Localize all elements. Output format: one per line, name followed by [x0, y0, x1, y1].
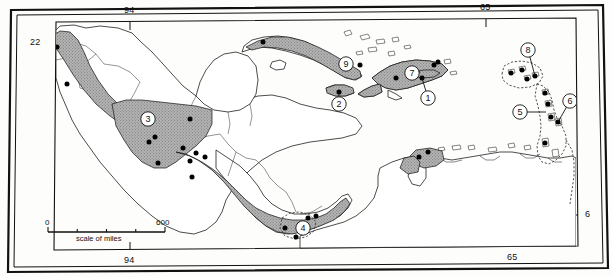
graticule-label-top-94: 94 [124, 5, 135, 15]
graticule-label-bottom-94: 94 [124, 255, 135, 265]
locality-dot [546, 102, 551, 107]
locality-dot [543, 91, 548, 96]
site-marker-label: 9 [343, 59, 348, 69]
site-marker-label: 6 [567, 96, 572, 106]
graticule-label-right-6: 6 [585, 209, 590, 219]
site-marker-9: 9 [339, 57, 353, 71]
site-marker-label: 8 [525, 45, 530, 55]
locality-dot [65, 82, 70, 87]
locality-dot [394, 76, 399, 81]
locality-dot [147, 140, 152, 145]
locality-dot [417, 155, 422, 160]
locality-dot [181, 146, 186, 151]
locality-dot [188, 159, 193, 164]
locality-dot [190, 175, 195, 180]
site-marker-label: 3 [145, 114, 150, 124]
locality-dot [358, 63, 363, 68]
locality-dot [203, 155, 208, 160]
site-marker-2: 2 [332, 97, 346, 111]
site-marker-4: 4 [296, 221, 310, 235]
scale-bar-min-label: 0 [45, 218, 49, 227]
locality-dot [194, 151, 199, 156]
site-marker-1: 1 [421, 91, 435, 105]
locality-dot [153, 135, 158, 140]
graticule-label-bottom-65: 65 [507, 252, 518, 262]
locality-dot [188, 117, 193, 122]
locality-dot [426, 150, 431, 155]
locality-dot [432, 63, 437, 68]
graticule-label-top-65: 65 [480, 2, 491, 12]
site-marker-label: 4 [300, 223, 305, 233]
site-marker-8: 8 [521, 43, 535, 57]
graticule-label-left-22: 22 [30, 37, 41, 47]
site-marker-7: 7 [405, 66, 419, 80]
scale-bar-caption: scale of miles [76, 234, 121, 243]
site-marker-3: 3 [141, 112, 155, 126]
site-marker-label: 1 [425, 93, 430, 103]
locality-dot [525, 77, 530, 82]
distribution-map-figure: 123456789 94 65 94 65 22 6 0 600 scale o… [0, 0, 612, 277]
site-marker-6: 6 [563, 94, 577, 108]
scale-bar-max-label: 600 [156, 218, 169, 227]
locality-dot [156, 161, 161, 166]
site-marker-label: 5 [517, 107, 522, 117]
locality-dot [543, 141, 548, 146]
site-marker-label: 2 [336, 99, 341, 109]
site-marker-label: 7 [409, 68, 414, 78]
locality-dot [436, 60, 441, 65]
locality-dot [294, 235, 299, 240]
locality-dot [520, 68, 525, 73]
locality-dot [283, 226, 288, 231]
locality-dot [314, 214, 319, 219]
locality-dot [306, 216, 311, 221]
locality-dot [261, 40, 266, 45]
site-marker-5: 5 [513, 105, 527, 119]
locality-dot [549, 115, 554, 120]
locality-dot [509, 71, 514, 76]
